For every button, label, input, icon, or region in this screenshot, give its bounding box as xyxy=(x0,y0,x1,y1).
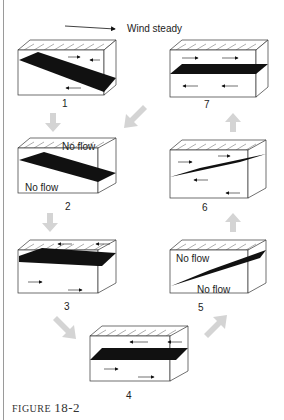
panel-1 xyxy=(18,40,116,95)
arrow-2-to-3 xyxy=(42,213,58,232)
arrow-4-to-5 xyxy=(204,315,227,338)
panel-7-number: 7 xyxy=(204,99,210,110)
panel-5-number: 5 xyxy=(198,302,204,313)
arrow-3-to-4 xyxy=(53,316,76,339)
arrow-7-to-1 xyxy=(124,105,147,128)
wind-label: Wind steady xyxy=(127,23,182,34)
panel-2-no-flow-bottom: No flow xyxy=(25,182,59,193)
panel-3 xyxy=(18,240,116,293)
arrow-5-to-6 xyxy=(225,213,241,232)
panel-5-no-flow-bottom: No flow xyxy=(197,284,231,295)
panel-4-number: 4 xyxy=(126,390,132,401)
panel-2-no-flow-top: No flow xyxy=(62,141,96,152)
arrow-6-to-7 xyxy=(225,113,241,132)
panel-1-number: 1 xyxy=(62,98,68,109)
wind-indicator: Wind steady xyxy=(65,23,182,34)
panel-7 xyxy=(170,40,268,97)
panel-5-no-flow-top: No flow xyxy=(176,253,210,264)
panel-6 xyxy=(170,140,266,198)
panel-4 xyxy=(90,326,188,381)
caption-number: 18-2 xyxy=(54,400,80,415)
seiche-diagram: Wind steady 1 7 No flow No flow 2 xyxy=(0,0,284,420)
caption-prefix: FIGURE xyxy=(12,403,51,414)
panel-6-number: 6 xyxy=(202,202,208,213)
panel-2-number: 2 xyxy=(65,201,71,212)
arrow-1-to-2 xyxy=(45,113,61,132)
panel-3-number: 3 xyxy=(64,301,70,312)
figure-caption: FIGURE 18-2 xyxy=(12,400,80,416)
